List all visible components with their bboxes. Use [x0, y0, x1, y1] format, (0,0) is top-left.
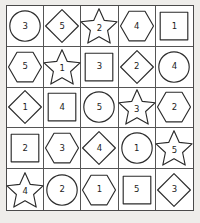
grid-cell-r3c5[interactable]: 2 — [156, 88, 193, 129]
grid-cell-r4c5[interactable]: 5 — [156, 128, 193, 169]
cell-number: 2 — [134, 62, 139, 71]
cell-number: 1 — [97, 185, 102, 194]
grid-cell-r5c4[interactable]: 5 — [119, 169, 156, 210]
grid-cell-r3c3[interactable]: 5 — [81, 88, 118, 129]
grid-cell-r4c3[interactable]: 4 — [81, 128, 118, 169]
grid-cell-r1c1[interactable]: 3 — [7, 6, 44, 47]
cell-number: 1 — [22, 103, 27, 112]
cell-number: 1 — [134, 144, 139, 153]
grid-cell-r3c1[interactable]: 1 — [7, 88, 44, 129]
grid-cell-r3c2[interactable]: 4 — [44, 88, 81, 129]
cell-number: 1 — [172, 22, 177, 31]
grid-cell-r4c4[interactable]: 1 — [119, 128, 156, 169]
grid-cell-r2c3[interactable]: 3 — [81, 47, 118, 88]
cell-number: 4 — [97, 144, 102, 153]
grid-cell-r5c3[interactable]: 1 — [81, 169, 118, 210]
grid-cell-r5c1[interactable]: 4 — [7, 169, 44, 210]
grid-cell-r1c5[interactable]: 1 — [156, 6, 193, 47]
grid-cell-r2c4[interactable]: 2 — [119, 47, 156, 88]
cell-number: 5 — [134, 185, 139, 194]
grid-cell-r2c1[interactable]: 5 — [7, 47, 44, 88]
cell-number: 4 — [60, 103, 65, 112]
cell-number: 2 — [97, 23, 102, 32]
grid-cell-r2c2[interactable]: 1 — [44, 47, 81, 88]
grid-cell-r2c5[interactable]: 4 — [156, 47, 193, 88]
grid-cell-r1c3[interactable]: 2 — [81, 6, 118, 47]
grid-cell-r4c1[interactable]: 2 — [7, 128, 44, 169]
cell-number: 4 — [22, 187, 27, 196]
puzzle-grid: 3524151324145322341542153 — [6, 5, 194, 211]
cell-number: 3 — [22, 22, 27, 31]
cell-number: 3 — [97, 62, 102, 71]
cell-number: 4 — [134, 22, 139, 31]
cell-number: 2 — [60, 185, 65, 194]
cell-number: 5 — [172, 146, 177, 155]
cell-number: 5 — [97, 103, 102, 112]
cell-number: 5 — [60, 22, 65, 31]
grid-cell-r5c2[interactable]: 2 — [44, 169, 81, 210]
cell-number: 4 — [172, 62, 177, 71]
cell-number: 1 — [60, 64, 65, 73]
grid-cell-r1c4[interactable]: 4 — [119, 6, 156, 47]
cell-number: 5 — [22, 62, 27, 71]
cell-number: 3 — [172, 185, 177, 194]
grid-cell-r1c2[interactable]: 5 — [44, 6, 81, 47]
cell-number: 2 — [22, 144, 27, 153]
cell-number: 2 — [172, 103, 177, 112]
grid-cell-r3c4[interactable]: 3 — [119, 88, 156, 129]
grid-cell-r5c5[interactable]: 3 — [156, 169, 193, 210]
cell-number: 3 — [60, 144, 65, 153]
cell-number: 3 — [134, 105, 139, 114]
grid-cell-r4c2[interactable]: 3 — [44, 128, 81, 169]
